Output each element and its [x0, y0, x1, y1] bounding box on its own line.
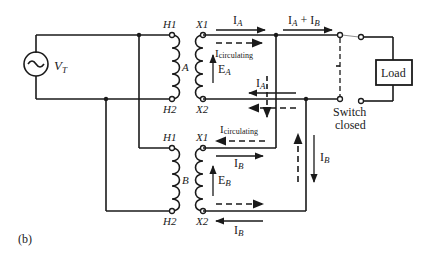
- transformer-b: H1 H2 X1 X2 B: [162, 131, 209, 227]
- eb-label: EB: [218, 173, 231, 188]
- parallel-transformers-circuit-diagram: VT H1 H2 X1 X2 A H1 H2 X1 X2 B: [0, 0, 435, 255]
- load-label: Load: [381, 66, 406, 80]
- primary-coil-b: [172, 148, 180, 211]
- load-box: Load: [376, 60, 412, 85]
- ea-label: EA: [218, 62, 231, 77]
- label-x2-a: X2: [195, 103, 209, 115]
- label-h2-b: H2: [162, 215, 177, 227]
- label-h1-b: H1: [162, 131, 176, 143]
- ia-plus-ib-label: IA + IB: [288, 13, 320, 28]
- label-x2-b: X2: [195, 215, 209, 227]
- label-transformer-a: A: [181, 61, 189, 73]
- terminal-h1-b: [170, 146, 175, 151]
- ib-label-right: IB: [320, 150, 330, 165]
- label-h1-a: H1: [162, 18, 176, 30]
- switch-closed[interactable]: Switch closed: [333, 33, 366, 133]
- secondary-coil-b: [196, 148, 204, 211]
- switch-label-line2: closed: [335, 118, 366, 132]
- circulating-label-b: Icirculating: [220, 123, 258, 136]
- ia-label-top: IA: [233, 13, 243, 28]
- terminal-h1-a: [170, 33, 175, 38]
- source-label: VT: [54, 58, 68, 75]
- transformer-a: H1 H2 X1 X2 A: [162, 18, 209, 115]
- label-h2-a: H2: [162, 103, 177, 115]
- terminal-h2-b: [170, 209, 175, 214]
- circulating-label-a: Icirculating: [215, 47, 253, 60]
- ib-label-bottom: IB: [234, 223, 244, 238]
- primary-coil-a: [172, 35, 180, 99]
- label-x1-a: X1: [195, 18, 208, 30]
- sine-wave-icon: [28, 61, 44, 67]
- figure-caption: (b): [18, 232, 32, 246]
- secondary-coil-a: [196, 35, 204, 99]
- label-transformer-b: B: [182, 174, 189, 186]
- switch-label-line1: Switch: [333, 105, 366, 119]
- label-x1-b: X1: [195, 131, 208, 143]
- ia-label-return: IA: [256, 76, 266, 91]
- ac-voltage-source: VT: [24, 35, 68, 99]
- terminal-h2-a: [170, 97, 175, 102]
- ib-label-top: IB: [234, 156, 244, 171]
